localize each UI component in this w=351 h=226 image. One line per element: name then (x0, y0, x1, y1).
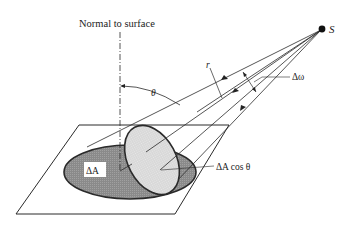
delta-a-label: ΔA (86, 166, 99, 176)
ray-arrow-1 (221, 75, 228, 80)
ray-arrow-2 (232, 88, 239, 93)
delta-omega-arrow-top (243, 72, 247, 77)
delta-omega-label: Δω (292, 72, 304, 82)
theta-label: θ (151, 88, 156, 98)
r-label: r (206, 60, 210, 70)
ray-lower (160, 30, 321, 170)
ray-outer-bottom (174, 30, 321, 184)
radiation-geometry-diagram: Normal to surface S θ r Δω ΔA ΔA cos θ (0, 0, 351, 226)
delta-a-cos-theta-label: ΔA cos θ (216, 162, 251, 172)
ray-arrow-3 (240, 105, 246, 111)
source-label: S (329, 23, 335, 35)
source-point (319, 26, 326, 33)
normal-label: Normal to surface (79, 18, 155, 29)
theta-arrow (120, 84, 125, 88)
ray-upper (197, 30, 321, 112)
delta-omega-leader-bend (254, 77, 262, 82)
ray-outer-top (87, 30, 321, 147)
r-dimension-line (210, 68, 222, 98)
